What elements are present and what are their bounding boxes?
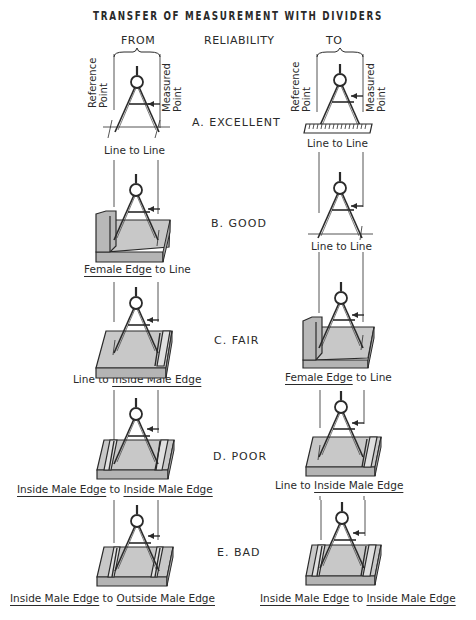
row-a-from-drawing <box>103 48 170 138</box>
row-b-from-drawing <box>96 160 170 262</box>
row-d-from-drawing <box>97 390 174 479</box>
connector-lines <box>320 496 364 500</box>
row-e-to-drawing <box>306 500 381 585</box>
row-d-to-drawing <box>306 390 381 476</box>
row-e-from-drawing <box>97 500 173 586</box>
row-c-to-drawing <box>303 282 374 368</box>
row-c-from-drawing <box>96 282 172 378</box>
row-b-to-drawing <box>308 152 373 282</box>
row-a-to-drawing <box>304 48 372 133</box>
diagram-drawings <box>0 0 476 620</box>
